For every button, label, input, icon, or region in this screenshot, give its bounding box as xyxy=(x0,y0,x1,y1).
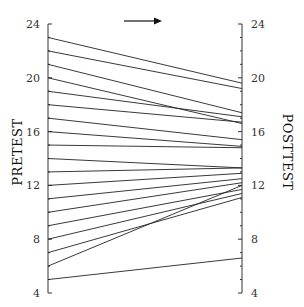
right-tick-label: 20 xyxy=(251,72,265,85)
left-tick-label: 24 xyxy=(26,18,40,31)
right-tick-label: 12 xyxy=(251,179,265,192)
subject-line xyxy=(48,118,242,140)
subject-line xyxy=(48,51,242,89)
subject-line xyxy=(48,78,242,124)
subject-line xyxy=(48,145,242,148)
direction-arrow xyxy=(124,18,162,25)
right-tick-label: 16 xyxy=(251,126,265,139)
subject-line xyxy=(48,193,242,239)
right-tick-label: 4 xyxy=(251,287,258,300)
subject-line xyxy=(48,91,242,117)
left-axis-title: PRETEST xyxy=(10,118,25,185)
right-axis-title: POSTTEST xyxy=(280,114,295,191)
subject-line xyxy=(48,132,242,147)
left-tick-label: 8 xyxy=(33,233,40,246)
subject-line xyxy=(48,64,242,112)
subject-line xyxy=(48,105,242,122)
left-tick-label: 16 xyxy=(26,126,40,139)
right-tick-label: 8 xyxy=(251,233,258,246)
subject-line xyxy=(48,258,242,280)
subject-line xyxy=(48,159,242,168)
right-axis: 4812162024 xyxy=(238,18,265,300)
right-tick-label: 24 xyxy=(251,18,265,31)
subject-line xyxy=(48,37,242,83)
left-tick-label: 12 xyxy=(26,179,40,192)
left-tick-label: 20 xyxy=(26,72,40,85)
subject-line xyxy=(48,168,242,172)
data-lines xyxy=(48,37,242,279)
subject-line xyxy=(48,173,242,185)
arrow-head-icon xyxy=(154,18,162,25)
subject-line xyxy=(48,179,242,199)
left-axis: 4812162024 xyxy=(26,18,52,300)
left-tick-label: 4 xyxy=(33,287,40,300)
slope-chart: 4812162024 4812162024 PRETEST POSTTEST xyxy=(0,0,304,307)
subject-line xyxy=(48,198,242,253)
